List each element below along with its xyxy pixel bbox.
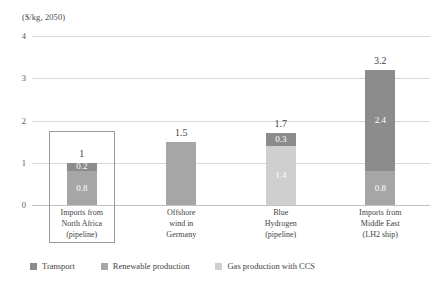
legend-item[interactable]: Gas production with CCS bbox=[215, 262, 315, 271]
bar-stack[interactable]: 0.20.8 bbox=[67, 163, 97, 205]
bar-total-label: 1.7 bbox=[275, 119, 288, 129]
gridline-0: 0 bbox=[32, 205, 430, 206]
category-axis-labels: Imports fromNorth Africa(pipeline)Offsho… bbox=[32, 207, 430, 247]
y-axis-tick-label: 4 bbox=[22, 32, 26, 41]
legend-item[interactable]: Transport bbox=[30, 262, 75, 271]
category-label: Imports fromMiddle East(LH2 ship) bbox=[331, 207, 431, 240]
category-label-line: Blue bbox=[231, 207, 331, 218]
bar-total-label: 1.5 bbox=[175, 128, 188, 138]
bar-total-label: 3.2 bbox=[374, 56, 387, 66]
category-label-line: Imports from bbox=[32, 207, 132, 218]
bar-segment-value-label: 0.2 bbox=[76, 162, 87, 171]
hydrogen-cost-bar-chart: ($/kg, 2050) 01234 0.20.811.50.31.41.72.… bbox=[0, 0, 442, 298]
bar-group[interactable]: 0.20.81 bbox=[32, 36, 132, 205]
legend-swatch-icon bbox=[101, 263, 108, 270]
bar-segment-value-label: 2.4 bbox=[375, 116, 386, 125]
legend-item[interactable]: Renewable production bbox=[101, 262, 190, 271]
y-axis-tick-label: 2 bbox=[22, 116, 26, 125]
legend-swatch-icon bbox=[30, 263, 37, 270]
y-axis-tick-label: 0 bbox=[22, 201, 26, 210]
bar-total-label: 1 bbox=[79, 149, 84, 159]
bar-segment-value-label: 1.4 bbox=[275, 171, 286, 180]
bar-segment-value-label: 0.8 bbox=[375, 184, 386, 193]
bar-group[interactable]: 2.40.83.2 bbox=[331, 36, 431, 205]
category-label-line: (LH2 ship) bbox=[331, 229, 431, 240]
category-label-line: Hydrogen bbox=[231, 218, 331, 229]
bar-segment[interactable]: 0.2 bbox=[67, 163, 97, 171]
chart-legend: TransportRenewable productionGas product… bbox=[30, 262, 341, 271]
bar-segment[interactable]: 0.8 bbox=[365, 171, 395, 205]
bar-segment[interactable]: 1.4 bbox=[266, 146, 296, 205]
category-label-line: Germany bbox=[132, 229, 232, 240]
bar-stack[interactable]: 2.40.8 bbox=[365, 70, 395, 205]
axis-unit-title: ($/kg, 2050) bbox=[22, 12, 65, 22]
category-label-line: North Africa bbox=[32, 218, 132, 229]
y-axis-tick-label: 1 bbox=[22, 159, 26, 168]
bar-segment-value-label: 0.3 bbox=[275, 135, 286, 144]
category-label: BlueHydrogen(pipeline) bbox=[231, 207, 331, 240]
bar-group[interactable]: 0.31.41.7 bbox=[231, 36, 331, 205]
category-label-line: wind in bbox=[132, 218, 232, 229]
bars-layer: 0.20.811.50.31.41.72.40.83.2 bbox=[32, 36, 430, 205]
category-label: Offshorewind inGermany bbox=[132, 207, 232, 240]
category-label-line: Offshore bbox=[132, 207, 232, 218]
bar-stack[interactable]: 0.31.4 bbox=[266, 133, 296, 205]
bar-segment[interactable]: 2.4 bbox=[365, 70, 395, 171]
plot-area: 01234 0.20.811.50.31.41.72.40.83.2 bbox=[32, 36, 430, 205]
legend-label: Transport bbox=[42, 262, 75, 271]
category-label-line: (pipeline) bbox=[231, 229, 331, 240]
bar-segment[interactable]: 0.8 bbox=[67, 171, 97, 205]
category-label: Imports fromNorth Africa(pipeline) bbox=[32, 207, 132, 240]
bar-group[interactable]: 1.5 bbox=[132, 36, 232, 205]
category-label-line: Imports from bbox=[331, 207, 431, 218]
bar-segment-value-label: 0.8 bbox=[76, 184, 87, 193]
legend-swatch-icon bbox=[215, 263, 222, 270]
bar-segment[interactable] bbox=[166, 142, 196, 205]
legend-label: Renewable production bbox=[113, 262, 190, 271]
bar-stack[interactable] bbox=[166, 142, 196, 205]
category-label-line: Middle East bbox=[331, 218, 431, 229]
bar-segment[interactable]: 0.3 bbox=[266, 133, 296, 146]
category-label-line: (pipeline) bbox=[32, 229, 132, 240]
legend-label: Gas production with CCS bbox=[227, 262, 315, 271]
y-axis-tick-label: 3 bbox=[22, 74, 26, 83]
